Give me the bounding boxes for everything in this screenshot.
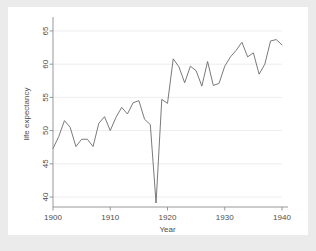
y-axis-title: life expectancy: [22, 88, 31, 141]
y-tick-label-45: 45: [41, 159, 50, 168]
line-chart[interactable]: 19001910192019301940 404550556065 Year l…: [8, 7, 308, 235]
figure-canvas: 19001910192019301940 404550556065 Year l…: [0, 0, 316, 251]
y-tick-label-55: 55: [41, 92, 50, 101]
y-tick-label-60: 60: [41, 59, 50, 68]
x-tick-label-1920: 1920: [159, 213, 177, 222]
y-tick-label-50: 50: [41, 126, 50, 135]
x-tick-label-1900: 1900: [44, 213, 62, 222]
x-tick-label-1930: 1930: [216, 213, 234, 222]
y-tick-label-40: 40: [41, 192, 50, 201]
y-tick-label-65: 65: [41, 26, 50, 35]
x-axis-title: Year: [159, 225, 176, 234]
x-tick-label-1940: 1940: [273, 213, 291, 222]
plot-card: 19001910192019301940 404550556065 Year l…: [8, 7, 308, 235]
x-tick-label-1910: 1910: [101, 213, 119, 222]
